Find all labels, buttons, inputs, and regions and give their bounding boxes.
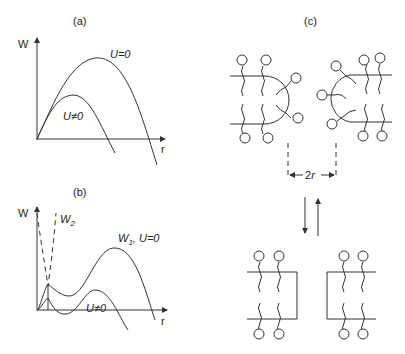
panel-a-label: (a) [73, 15, 86, 27]
panel-a-y-axis-label: W [18, 38, 29, 50]
curve-a-u-nonzero [37, 95, 115, 153]
panel-b: (b) W r W2 W1, U=0 U≠0 [18, 186, 167, 330]
curve-a-u-nonzero-label: U≠0 [63, 110, 84, 122]
panel-b-y-axis-label: W [18, 207, 29, 219]
panel-b-x-axis-label: r [161, 315, 165, 327]
curve-a-u-zero-label: U=0 [110, 48, 131, 60]
dimension-label: 2r [305, 169, 316, 181]
figure-canvas: (a) W r U=0 U≠0 (b) W r W2 W1, U=0 U≠0 (… [0, 0, 405, 354]
curve-b-u-nonzero-label: U≠0 [86, 302, 107, 314]
panel-a-x-axis-label: r [161, 143, 165, 155]
panel-c: (c) [230, 15, 392, 339]
flat-edge-left [247, 251, 297, 339]
curve-b-w2 [37, 213, 56, 286]
figure-svg: (a) W r U=0 U≠0 (b) W r W2 W1, U=0 U≠0 (… [0, 0, 405, 354]
curve-b-w1-label: W1, U=0 [118, 232, 160, 247]
panel-c-label: (c) [304, 15, 317, 27]
curved-edge-left [230, 55, 303, 143]
flat-edge-right [327, 251, 376, 339]
panel-a: (a) W r U=0 U≠0 [18, 15, 165, 165]
curved-edge-right [317, 53, 392, 141]
panel-b-label: (b) [73, 186, 86, 198]
curve-a-u-zero [37, 58, 157, 165]
curve-b-w2-label: W2 [60, 213, 75, 228]
